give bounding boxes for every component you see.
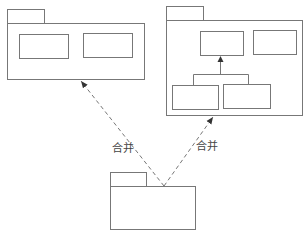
- generalization-connector: [194, 58, 249, 85]
- class-box: [254, 31, 297, 55]
- package-tab: [111, 173, 147, 187]
- generalization-arrow-icon: [218, 56, 224, 62]
- package-merge-diagram: 合并 合并: [0, 0, 305, 234]
- class-box-child: [173, 86, 219, 110]
- class-box: [84, 34, 133, 58]
- class-box-parent: [201, 32, 244, 56]
- class-box: [20, 35, 69, 59]
- bottom-package: [111, 173, 196, 230]
- package-body: [167, 21, 303, 116]
- package-tab: [167, 7, 204, 21]
- merge-dependency-left: [81, 81, 164, 186]
- left-package: [8, 10, 145, 80]
- merge-label-left: 合并: [112, 141, 134, 155]
- merge-label-right: 合并: [196, 139, 218, 153]
- class-box-child: [224, 85, 271, 109]
- right-package: [167, 7, 303, 116]
- package-body: [111, 187, 196, 230]
- package-tab: [8, 10, 45, 24]
- package-body: [8, 24, 145, 80]
